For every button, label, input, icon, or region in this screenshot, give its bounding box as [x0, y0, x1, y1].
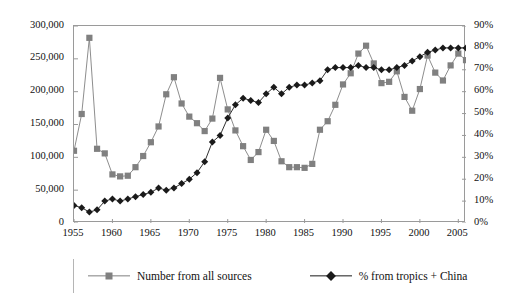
legend-label: Number from all sources: [137, 270, 252, 282]
x-axis-tick-label: 1975: [216, 228, 237, 239]
x-axis: 1955196019651970197519801985199019952000…: [0, 0, 522, 301]
x-axis-tick-label: 1980: [255, 228, 276, 239]
chart-figure: 050,000100,000150,000200,000250,000300,0…: [0, 0, 522, 301]
legend-entry-number-from-all-sources: Number from all sources: [88, 270, 252, 282]
legend-entry-percent-from-tropics-china: % from tropics + China: [310, 270, 468, 282]
x-axis-tick-label: 2005: [447, 228, 468, 239]
square-marker-icon: [88, 270, 130, 282]
x-axis-tick-label: 2000: [408, 228, 429, 239]
x-axis-tick-label: 1970: [178, 228, 199, 239]
x-axis-tick-label: 1960: [101, 228, 122, 239]
x-axis-tick-label: 1955: [63, 228, 84, 239]
x-axis-tick-label: 1965: [139, 228, 160, 239]
diamond-marker-icon: [310, 270, 352, 282]
legend-label: % from tropics + China: [359, 270, 468, 282]
x-axis-tick-label: 1985: [293, 228, 314, 239]
x-axis-tick-label: 1995: [370, 228, 391, 239]
x-axis-tick-label: 1990: [332, 228, 353, 239]
chart-legend: Number from all sources % from tropics +…: [73, 259, 465, 293]
